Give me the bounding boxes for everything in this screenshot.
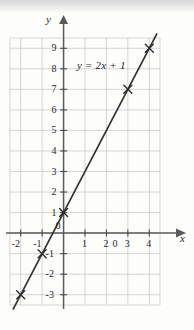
y-tick-label: 3 <box>52 167 57 177</box>
y-tick-label: -2 <box>46 269 54 279</box>
y-tick-label: 1 <box>52 208 57 218</box>
y-tick-label: -1 <box>46 249 54 259</box>
y-tick-label: 7 <box>52 84 57 94</box>
y-tick-label: 8 <box>52 64 57 74</box>
y-tick-label: 2 <box>52 187 57 197</box>
x-tick-label: 3 <box>125 239 130 249</box>
equation-annotation: y = 2x + 1 <box>77 60 126 70</box>
x-tick-label: 4 <box>146 239 151 249</box>
x-tick-label: -1 <box>33 239 41 249</box>
x-tick-label: -2 <box>12 239 20 249</box>
y-tick-label: 5 <box>52 125 57 135</box>
x-tick-label: 1 <box>82 239 87 249</box>
coordinate-plane <box>0 0 194 330</box>
y-tick-label: -3 <box>46 290 54 300</box>
x-tick-label: 2 <box>103 239 108 249</box>
y-axis-arrowhead <box>59 15 68 24</box>
y-tick-label: 4 <box>52 146 57 156</box>
origin-label: 0 <box>56 221 61 231</box>
y-tick-label: 6 <box>52 105 57 115</box>
y-axis-label: y <box>46 14 51 24</box>
graph-page: 987654321-1-2-3-2-1123400 y x y = 2x + 1 <box>0 0 194 330</box>
y-tick-label: 9 <box>52 43 57 53</box>
x-axis-label: x <box>180 233 185 243</box>
stray-zero-label: 0 <box>112 239 117 249</box>
